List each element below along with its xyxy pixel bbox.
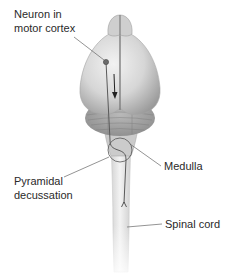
label-medulla: Medulla xyxy=(164,159,203,173)
leader-line-spinal-cord xyxy=(127,224,162,227)
leader-line-medulla xyxy=(130,144,161,166)
label-line-2: decussation xyxy=(14,188,73,202)
label-line-1: Pyramidal xyxy=(14,174,73,188)
label-line-2: motor cortex xyxy=(14,21,75,35)
diagram-canvas: Neuron in motor cortex Medulla Pyramidal… xyxy=(0,0,230,278)
label-spinal-cord: Spinal cord xyxy=(165,217,220,231)
neuron-cell-body xyxy=(103,59,108,64)
label-pyramidal-decussation: Pyramidal decussation xyxy=(14,174,73,202)
olfactory-bulb xyxy=(108,15,132,36)
brain-illustration xyxy=(0,0,230,278)
label-line-1: Neuron in xyxy=(14,7,75,21)
label-neuron-in-motor-cortex: Neuron in motor cortex xyxy=(14,7,75,35)
